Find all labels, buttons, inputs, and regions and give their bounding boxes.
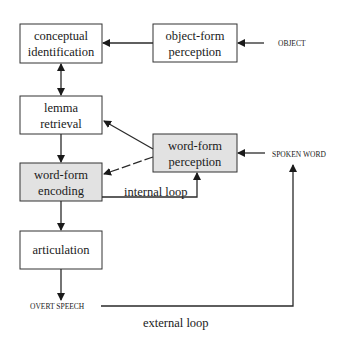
object-form-perception-box: object-form perception	[153, 24, 237, 62]
conceptual-identification-line2: identification	[28, 45, 95, 59]
lemma-retrieval-line2: retrieval	[40, 117, 82, 131]
articulation-label: articulation	[33, 243, 91, 257]
word-form-perception-box: word-form perception	[153, 134, 237, 172]
lemma-retrieval-box: lemma retrieval	[20, 96, 102, 134]
external-loop-label: external loop	[143, 316, 209, 330]
object-form-perception-line1: object-form	[165, 29, 224, 43]
object-form-perception-line2: perception	[169, 45, 223, 59]
word-form-encoding-line1: word-form	[34, 168, 88, 182]
conceptual-identification-box: conceptual identification	[20, 24, 102, 63]
speech-production-diagram: conceptual identification object-form pe…	[0, 0, 349, 345]
conceptual-identification-line1: conceptual	[34, 29, 89, 43]
object-input-label: OBJECT	[278, 39, 306, 48]
lemma-retrieval-line1: lemma	[44, 101, 78, 115]
overt-speech-output-label: OVERT SPEECH	[30, 302, 85, 311]
articulation-box: articulation	[20, 231, 102, 269]
spoken-word-input-label: SPOKEN WORD	[272, 150, 326, 159]
word-form-perception-line1: word-form	[168, 139, 222, 153]
word-form-perception-line2: perception	[169, 155, 223, 169]
perception-to-encoding-dashed-arrow	[104, 157, 153, 174]
word-form-encoding-line2: encoding	[38, 184, 85, 198]
perception-to-lemma-arrow	[104, 121, 153, 149]
word-form-encoding-box: word-form encoding	[20, 163, 102, 201]
